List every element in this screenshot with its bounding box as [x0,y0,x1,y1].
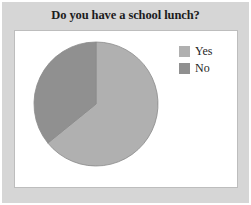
chart-frame: Do you have a school lunch? Yes No [0,0,251,205]
legend-swatch-yes [179,46,190,57]
chart-title: Do you have a school lunch? [0,8,251,23]
legend-label-yes: Yes [195,45,212,58]
legend-swatch-no [179,63,190,74]
legend-label-no: No [195,62,210,75]
chart-legend: Yes No [179,44,231,78]
legend-item-no[interactable]: No [179,61,231,76]
legend-item-yes[interactable]: Yes [179,44,231,59]
